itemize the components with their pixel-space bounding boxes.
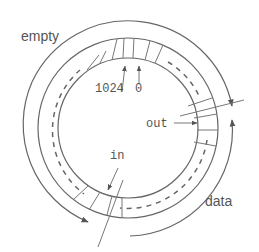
outer-arcs <box>23 21 232 236</box>
empty-label: empty <box>21 28 59 44</box>
in-pointer-arrow <box>108 168 118 190</box>
out-boundary-line <box>180 100 244 116</box>
empty-region-arc <box>32 21 232 106</box>
index-last-label: 1024 <box>95 82 124 96</box>
data-label: data <box>205 193 232 209</box>
dashed-flow-path <box>52 62 207 208</box>
buffer-ring <box>38 38 218 218</box>
in-label: in <box>110 149 124 163</box>
out-label: out <box>146 117 168 131</box>
index-first-label: 0 <box>135 82 142 96</box>
circular-buffer-diagram: empty data 1024 0 out in <box>0 0 259 252</box>
